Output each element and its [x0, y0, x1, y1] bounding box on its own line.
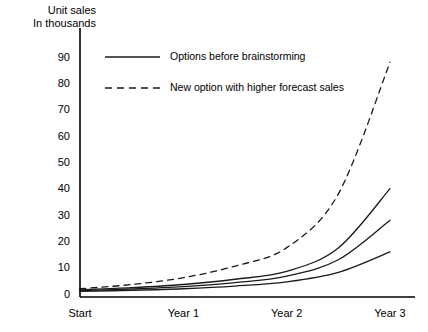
y-tick-label: 10 [42, 262, 70, 273]
series-group [80, 62, 390, 291]
y-tick-label: 20 [42, 236, 70, 247]
y-tick-label: 90 [42, 52, 70, 63]
y-tick-label: 50 [42, 157, 70, 168]
y-tick-label: 30 [42, 210, 70, 221]
y-tick-label: 0 [42, 289, 70, 300]
x-tick-label: Year 2 [257, 308, 317, 319]
chart-container: Unit sales In thousands 0102030405060708… [0, 0, 428, 332]
legend-item-label: New option with higher forecast sales [170, 82, 344, 93]
chart-series-line [80, 189, 390, 290]
y-tick-label: 40 [42, 183, 70, 194]
x-tick-label: Start [50, 308, 110, 319]
y-tick-label: 60 [42, 131, 70, 142]
chart-series-line [80, 220, 390, 290]
y-tick-label: 80 [42, 78, 70, 89]
legend-item-label: Options before brainstorming [170, 51, 305, 62]
legend-line-samples [105, 57, 160, 88]
x-tick-label: Year 3 [360, 308, 420, 319]
y-tick-label: 70 [42, 104, 70, 115]
chart-series-line [80, 62, 390, 288]
x-tick-label: Year 1 [153, 308, 213, 319]
